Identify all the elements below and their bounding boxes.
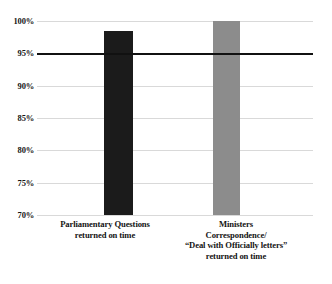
gridline-100 <box>37 21 313 22</box>
bar-ministers-correspondence <box>213 21 240 215</box>
y-tick-label-100: 100% <box>0 16 34 26</box>
y-tick-label-95: 95% <box>0 48 34 58</box>
y-tick-label-75: 75% <box>0 178 34 188</box>
y-tick-label-85: 85% <box>0 113 34 123</box>
y-tick-label-80: 80% <box>0 145 34 155</box>
bar-chart: 100% 95% 90% 85% 80% 75% 70% Parliamenta… <box>0 0 332 284</box>
gridline-80 <box>37 150 313 151</box>
y-tick-label-90: 90% <box>0 81 34 91</box>
category-label-ministers-correspondence: Ministers Correspondence/ “Deal with Off… <box>148 219 324 261</box>
target-line-95 <box>37 53 313 55</box>
gridline-75 <box>37 183 313 184</box>
category-label-line: “Deal with Officially letters” <box>148 240 324 251</box>
gridline-85 <box>37 118 313 119</box>
bar-parliamentary-questions <box>104 31 133 215</box>
y-axis: 100% 95% 90% 85% 80% 75% 70% <box>0 21 34 215</box>
category-label-line: returned on time <box>148 251 324 262</box>
gridline-90 <box>37 86 313 87</box>
plot-area <box>37 21 313 215</box>
category-label-line: Correspondence/ <box>148 230 324 241</box>
y-tick-label-70: 70% <box>0 210 34 220</box>
gridline-70 <box>37 215 313 216</box>
category-label-line: Ministers <box>148 219 324 230</box>
